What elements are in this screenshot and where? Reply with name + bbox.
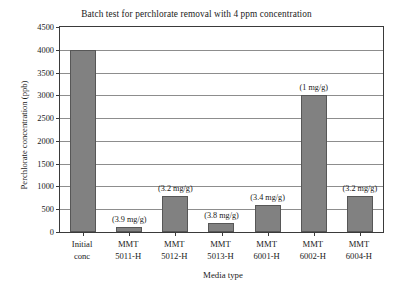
x-axis-label-line: MMT (105, 239, 151, 251)
bar-slot: (3.2 mg/g) (152, 27, 198, 232)
x-axis-label: MMT6002-H (290, 239, 336, 262)
bar[interactable] (162, 196, 188, 232)
x-axis-title: Media type (58, 270, 388, 280)
bar[interactable] (70, 50, 96, 232)
x-axis-tick-mark (268, 232, 269, 236)
bar-annotation: (3.9 mg/g) (112, 215, 147, 224)
bars-layer: (3.9 mg/g)(3.2 mg/g)(3.8 mg/g)(3.4 mg/g)… (60, 27, 383, 232)
x-axis-tick-mark (129, 232, 130, 236)
x-axis-tick-mark (175, 232, 176, 236)
y-axis-tick-mark (56, 232, 60, 233)
x-axis-label-line: conc (59, 251, 105, 263)
chart-title: Batch test for perchlorate removal with … (0, 9, 393, 19)
x-axis-label: MMT6004-H (336, 239, 382, 262)
bar-annotation: (3.8 mg/g) (204, 211, 239, 220)
y-axis-tick-label: 1000 (37, 182, 54, 191)
bar-slot (60, 27, 106, 232)
y-axis-tick-label: 2000 (37, 136, 54, 145)
y-axis-tick-label: 3500 (37, 68, 54, 77)
bar[interactable] (208, 223, 234, 232)
x-axis-label-line: MMT (244, 239, 290, 251)
x-axis-label-line: 5012-H (151, 251, 197, 263)
bar-slot: (3.9 mg/g) (106, 27, 152, 232)
x-axis-label-line: MMT (151, 239, 197, 251)
x-axis-label-line: 5011-H (105, 251, 151, 263)
x-axis-tick-mark (222, 232, 223, 236)
y-axis-tick-label: 0 (50, 228, 54, 237)
x-axis-tick-mark (83, 232, 84, 236)
bar-chart-figure: Batch test for perchlorate removal with … (0, 0, 393, 294)
bar-annotation: (1 mg/g) (300, 83, 328, 92)
bar-annotation: (3.2 mg/g) (158, 184, 193, 193)
y-axis-tick-label: 1500 (37, 159, 54, 168)
x-axis-label-line: 6002-H (290, 251, 336, 263)
y-axis-tick-label: 4000 (37, 45, 54, 54)
y-axis-tick-label: 2500 (37, 114, 54, 123)
bar-slot: (3.2 mg/g) (337, 27, 383, 232)
bar-slot: (3.8 mg/g) (198, 27, 244, 232)
y-axis-title: Perchlorate concentration (ppb) (19, 35, 29, 235)
bar-slot: (3.4 mg/g) (245, 27, 291, 232)
x-axis-label-line: 5013-H (197, 251, 243, 263)
x-axis-label: Initialconc (59, 239, 105, 262)
x-axis-tick-mark (314, 232, 315, 236)
x-axis-label: MMT5012-H (151, 239, 197, 262)
plot-area: 050010001500200025003000350040004500 (3.… (59, 26, 384, 233)
bar[interactable] (301, 95, 327, 232)
bar-annotation: (3.4 mg/g) (250, 193, 285, 202)
y-axis-tick-label: 3000 (37, 91, 54, 100)
y-axis-tick-label: 4500 (37, 23, 54, 32)
x-axis-label-line: MMT (290, 239, 336, 251)
x-axis-label-line: MMT (336, 239, 382, 251)
x-axis-label-line: 6001-H (244, 251, 290, 263)
bar-slot: (1 mg/g) (291, 27, 337, 232)
x-axis-label-line: MMT (197, 239, 243, 251)
y-axis-tick-label: 500 (41, 205, 54, 214)
x-axis-label: MMT5013-H (197, 239, 243, 262)
bar[interactable] (347, 196, 373, 232)
x-axis-label: MMT6001-H (244, 239, 290, 262)
bar[interactable] (255, 205, 281, 232)
x-axis-label-line: 6004-H (336, 251, 382, 263)
bar-annotation: (3.2 mg/g) (343, 184, 378, 193)
x-axis-tick-mark (360, 232, 361, 236)
x-axis-label: MMT5011-H (105, 239, 151, 262)
x-axis-label-line: Initial (59, 239, 105, 251)
